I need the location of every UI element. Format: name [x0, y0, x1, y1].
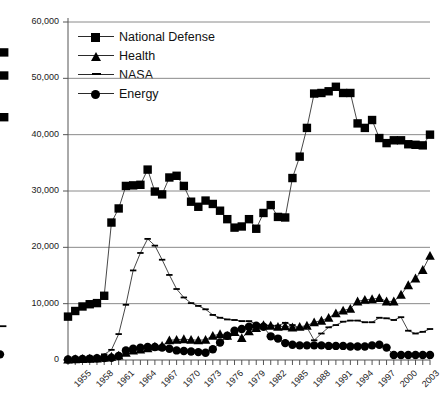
data-point: [224, 319, 230, 321]
data-point: [223, 215, 231, 223]
data-point: [339, 342, 347, 350]
data-point: [137, 252, 143, 254]
data-point: [246, 320, 252, 322]
data-point: [107, 354, 115, 362]
data-point: [230, 223, 238, 231]
data-point: [0, 325, 6, 327]
data-point: [340, 321, 346, 323]
data-point: [324, 313, 334, 322]
data-point: [332, 83, 340, 91]
data-point: [64, 312, 72, 320]
data-point: [368, 116, 376, 124]
data-point: [391, 319, 397, 321]
y-axis-label: 30,000: [0, 185, 59, 195]
data-point: [151, 187, 159, 195]
data-point: [78, 355, 86, 363]
data-point: [86, 354, 94, 362]
data-point: [369, 321, 375, 323]
data-point: [404, 140, 412, 148]
data-point: [288, 341, 296, 349]
data-point: [166, 274, 172, 276]
data-point: [217, 317, 223, 319]
data-point: [209, 200, 217, 208]
data-point: [114, 204, 122, 212]
series-line: [68, 239, 430, 360]
data-point: [426, 130, 434, 138]
data-point: [239, 320, 245, 322]
series-energy: [0, 321, 434, 363]
data-point: [64, 355, 72, 363]
data-point: [354, 320, 360, 322]
y-axis-label: 10,000: [0, 298, 59, 308]
data-point: [383, 317, 389, 319]
data-point: [100, 354, 108, 362]
data-point: [194, 348, 202, 356]
data-point: [295, 341, 303, 349]
data-point: [382, 343, 390, 351]
data-point: [418, 265, 428, 274]
data-point: [159, 259, 165, 261]
data-point: [71, 307, 79, 315]
data-point: [318, 333, 324, 335]
data-point: [275, 325, 281, 327]
data-point: [180, 182, 188, 190]
data-point: [216, 207, 224, 215]
data-point: [426, 351, 434, 359]
data-point: [158, 190, 166, 198]
series-national-defense: [0, 48, 434, 321]
data-point: [114, 352, 122, 360]
data-point: [259, 323, 267, 331]
data-point: [158, 343, 166, 351]
data-point: [201, 196, 209, 204]
data-point: [181, 297, 187, 299]
data-point: [71, 355, 79, 363]
chart-container: National Defense Health NASA Energy 010,…: [0, 0, 445, 419]
data-point: [362, 321, 368, 323]
data-point: [210, 314, 216, 316]
data-point: [317, 341, 325, 349]
data-point: [194, 203, 202, 211]
data-point: [281, 213, 289, 221]
data-point: [361, 124, 369, 132]
data-point: [245, 215, 253, 223]
data-point: [289, 324, 295, 326]
data-point: [303, 341, 311, 349]
data-point: [304, 326, 310, 328]
data-point: [143, 343, 151, 351]
data-point: [404, 351, 412, 359]
data-point: [151, 343, 159, 351]
data-point: [303, 124, 311, 132]
data-point: [376, 317, 382, 319]
data-point: [172, 172, 180, 180]
data-point: [375, 341, 383, 349]
data-point: [346, 342, 354, 350]
data-point: [398, 316, 404, 318]
data-point: [419, 351, 427, 359]
data-point: [0, 48, 8, 56]
data-point: [390, 351, 398, 359]
data-point: [412, 333, 418, 335]
data-point: [180, 347, 188, 355]
data-point: [122, 346, 130, 354]
data-point: [274, 334, 282, 342]
data-point: [93, 354, 101, 362]
data-point: [238, 222, 246, 230]
data-point: [332, 342, 340, 350]
data-point: [324, 342, 332, 350]
data-point: [317, 89, 325, 97]
data-point: [288, 174, 296, 182]
data-point: [346, 89, 354, 97]
data-point: [361, 342, 369, 350]
data-point: [129, 345, 137, 353]
data-point: [427, 328, 433, 330]
data-point: [187, 198, 195, 206]
data-point: [179, 334, 189, 343]
data-point: [115, 333, 121, 335]
data-point: [419, 141, 427, 149]
y-axis-label: 40,000: [0, 129, 59, 139]
data-point: [375, 134, 383, 142]
data-point: [130, 270, 136, 272]
data-point: [231, 319, 237, 321]
data-point: [420, 331, 426, 333]
data-point: [209, 345, 217, 353]
